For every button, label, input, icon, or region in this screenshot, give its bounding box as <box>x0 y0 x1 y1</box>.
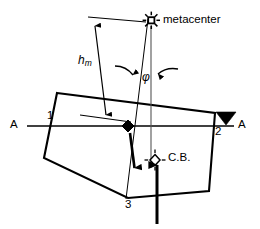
waterline-label-left: A <box>10 119 18 131</box>
body-centerline-axis <box>126 19 148 199</box>
waterline-label-right: A <box>238 119 246 131</box>
metacenter-label: metacenter <box>163 14 221 26</box>
metacentric-height-symbol: h <box>78 53 85 67</box>
point-label-3: 3 <box>125 199 131 211</box>
diagram-canvas <box>0 0 260 229</box>
metacenter-stability-diagram: metacenter C.B. A A 1 2 3 hm φ <box>0 0 260 229</box>
hull-body-outline <box>44 93 215 198</box>
extension-line-top <box>88 17 146 22</box>
metacentric-height-label: hm <box>78 54 92 68</box>
center-of-gravity-filled-diamond-icon <box>122 120 134 132</box>
center-of-buoyancy-diamond-icon <box>145 150 166 171</box>
heel-arrow-right-icon <box>158 69 178 74</box>
metacentric-height-subscript: m <box>85 58 92 68</box>
heel-angle-label: φ <box>142 71 150 83</box>
heel-arrow-left-icon <box>115 66 133 75</box>
metacenter-star-icon <box>143 12 160 29</box>
point-label-2: 2 <box>215 126 221 138</box>
point-label-1: 1 <box>47 110 53 122</box>
extension-line-bottom <box>80 115 131 122</box>
dimension-line-hm <box>95 26 106 115</box>
water-level-triangle-icon <box>216 112 236 125</box>
center-of-buoyancy-label: C.B. <box>168 152 190 164</box>
